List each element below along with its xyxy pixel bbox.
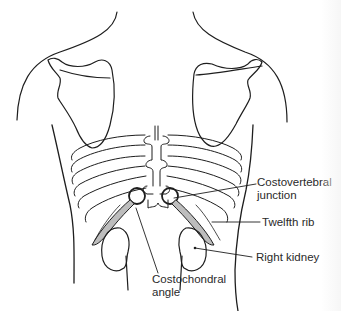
left-torso-outline <box>17 12 117 120</box>
spine <box>143 126 170 208</box>
page-edge-shadow <box>321 0 341 311</box>
leader-costovertebral <box>174 184 256 198</box>
leader-costochondral <box>136 208 158 273</box>
label-costochondral-line2: angle <box>152 286 226 299</box>
label-costochondral-angle: Costochondral angle <box>152 273 226 299</box>
anatomy-diagram <box>0 0 341 311</box>
right-twelfth-rib <box>172 200 214 245</box>
left-twelfth-rib <box>92 200 134 245</box>
left-scapula <box>48 58 114 148</box>
right-torso-outline <box>193 12 287 122</box>
label-costochondral-line1: Costochondral <box>152 273 226 286</box>
right-flank-outline <box>235 125 253 311</box>
left-scapular-spine <box>60 70 110 78</box>
left-ribs <box>71 135 146 222</box>
left-kidney <box>102 228 129 271</box>
left-flank-outline <box>52 125 74 283</box>
right-scapula <box>193 60 262 147</box>
label-right-kidney: Right kidney <box>256 251 319 264</box>
right-scapular-spine <box>196 66 262 75</box>
label-twelfth-rib: Twelfth rib <box>262 216 314 229</box>
leader-right-kidney <box>195 248 252 257</box>
